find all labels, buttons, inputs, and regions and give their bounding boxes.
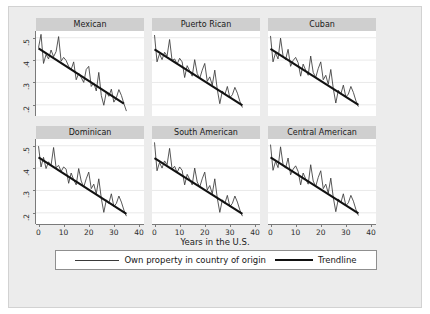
legend-swatch-trendline [275, 259, 313, 261]
x-tick-label: 30 [225, 228, 235, 237]
panel-title: Mexican [36, 18, 144, 31]
y-tick [33, 146, 36, 147]
x-axis-spine [36, 224, 144, 225]
panel-title: Cuban [268, 18, 376, 31]
y-axis-spine [35, 139, 36, 224]
plot-area [268, 31, 376, 116]
y-tick [33, 38, 36, 39]
panel-south-american: South American [152, 126, 260, 224]
x-axis-spine [152, 224, 260, 225]
x-tick-label: 0 [268, 228, 273, 237]
plot-area [36, 31, 144, 116]
x-axis-spine [268, 224, 376, 225]
legend-item-1: Own property in country of origin [75, 255, 266, 265]
x-tick-label: 40 [250, 228, 260, 237]
y-tick-label: .5 [22, 39, 31, 46]
y-tick [33, 213, 36, 214]
plot-svg [36, 31, 144, 116]
x-tick-label: 30 [341, 228, 351, 237]
y-axis-spine [35, 31, 36, 116]
plot-svg [268, 31, 376, 116]
x-tick-label: 20 [84, 228, 94, 237]
legend-swatch-series [75, 260, 119, 261]
x-tick [89, 224, 90, 227]
y-tick-label: .3 [22, 191, 31, 198]
plot-svg [152, 31, 260, 116]
legend-item-2: Trendline [275, 255, 357, 265]
x-tick-label: 40 [134, 228, 144, 237]
panel-central-american: Central American [268, 126, 376, 224]
x-tick-label: 20 [316, 228, 326, 237]
y-tick-label: .2 [22, 106, 31, 113]
trendline [271, 157, 359, 213]
x-tick [155, 224, 156, 227]
figure-panel: Mexican.2.3.4.5Puerto RicanCubanDominica… [8, 6, 422, 308]
trendline [155, 158, 243, 214]
x-tick [139, 224, 140, 227]
trendline [155, 49, 243, 105]
panel-title: Central American [268, 126, 376, 139]
x-tick-label: 20 [200, 228, 210, 237]
x-axis: 010203040 [152, 224, 260, 236]
x-tick-label: 10 [175, 228, 185, 237]
x-tick-label: 0 [152, 228, 157, 237]
x-tick [271, 224, 272, 227]
x-tick [39, 224, 40, 227]
panel-title: South American [152, 126, 260, 139]
series-line [39, 34, 127, 111]
y-axis: .2.3.4.5 [27, 139, 36, 224]
y-tick [33, 105, 36, 106]
legend-label: Own property in country of origin [124, 255, 266, 265]
panel-dominican: Dominican [36, 126, 144, 224]
x-tick [114, 224, 115, 227]
x-tick [346, 224, 347, 227]
panel-title: Puerto Rican [152, 18, 260, 31]
y-tick-label: .4 [22, 169, 31, 176]
legend-label: Trendline [318, 255, 357, 265]
y-tick-label: .4 [22, 61, 31, 68]
plot-area [152, 139, 260, 224]
x-axis: 010203040 [36, 224, 144, 236]
x-tick-label: 40 [366, 228, 376, 237]
panel-title: Dominican [36, 126, 144, 139]
chart-legend: Own property in country of originTrendli… [55, 250, 377, 270]
panel-mexican: Mexican [36, 18, 144, 116]
x-axis: 010203040 [268, 224, 376, 236]
x-tick [180, 224, 181, 227]
y-axis: .2.3.4.5 [27, 31, 36, 116]
plot-area [268, 139, 376, 224]
plot-svg [36, 139, 144, 224]
x-tick [255, 224, 256, 227]
plot-area [152, 31, 260, 116]
y-tick-label: .2 [22, 214, 31, 221]
x-tick [205, 224, 206, 227]
y-tick [33, 190, 36, 191]
x-tick [321, 224, 322, 227]
x-tick [64, 224, 65, 227]
panel-puerto-rican: Puerto Rican [152, 18, 260, 116]
y-tick-label: .5 [22, 147, 31, 154]
trendline [271, 49, 359, 105]
x-tick-label: 30 [109, 228, 119, 237]
x-tick-label: 10 [291, 228, 301, 237]
y-tick-label: .3 [22, 83, 31, 90]
plot-svg [152, 139, 260, 224]
x-axis-title: Years in the U.S. [9, 237, 421, 247]
x-tick [230, 224, 231, 227]
y-tick [33, 168, 36, 169]
x-tick-label: 10 [59, 228, 69, 237]
y-tick [33, 82, 36, 83]
y-tick [33, 60, 36, 61]
plot-svg [268, 139, 376, 224]
trendline [39, 48, 124, 103]
trendline [39, 157, 127, 214]
plot-area [36, 139, 144, 224]
panel-cuban: Cuban [268, 18, 376, 116]
x-tick [296, 224, 297, 227]
x-tick-label: 0 [36, 228, 41, 237]
x-tick [371, 224, 372, 227]
